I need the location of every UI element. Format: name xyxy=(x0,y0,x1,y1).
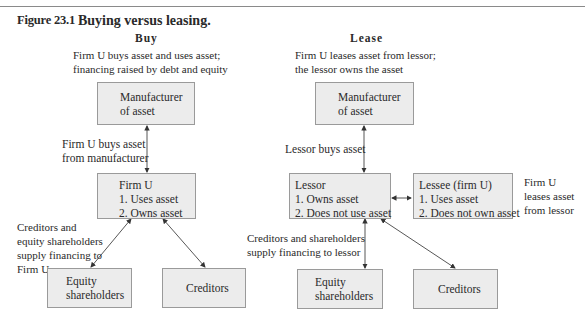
firm-box-title: Firm U xyxy=(119,178,195,192)
lease-manufacturer-box: Manufacturer of asset xyxy=(315,82,414,125)
box-line: shareholders xyxy=(66,288,131,302)
firm-box-item: 1. Uses asset xyxy=(119,192,195,206)
label-line: leases asset xyxy=(524,189,574,203)
box-line: of asset xyxy=(120,104,194,118)
lessee-box-item: 2. Does not own asset xyxy=(419,206,512,220)
box-line: Equity xyxy=(315,275,382,289)
box-line: Equity xyxy=(66,274,131,288)
buy-firm-box: Firm U 1. Uses asset 2. Owns asset xyxy=(97,173,196,219)
lease-purchase-label: Lessor buys asset xyxy=(285,142,366,156)
box-line: Creditors xyxy=(438,282,497,296)
label-line: equity shareholders xyxy=(17,234,103,248)
lessor-box-title: Lessor xyxy=(295,178,390,192)
box-line: of asset xyxy=(338,104,413,118)
lease-caption-line-1: Firm U leases asset from lessor; xyxy=(295,48,436,62)
label-line: Creditors and shareholders xyxy=(247,231,365,245)
label-line: Firm U xyxy=(524,175,574,189)
label-line: supply financing to lessor xyxy=(247,245,365,259)
buy-purchase-label: Firm U buys asset from manufacturer xyxy=(62,137,149,165)
lease-heading: Lease xyxy=(350,32,383,44)
lessee-box-item: 1. Uses asset xyxy=(419,192,512,206)
buy-creditors-arrow xyxy=(163,219,205,267)
label-line: Creditors and xyxy=(17,220,103,234)
lessor-box-item: 1. Owns asset xyxy=(295,192,390,206)
label-line: from lessor xyxy=(524,203,574,217)
buy-caption-line-1: Firm U buys asset and uses asset; xyxy=(73,48,228,62)
lease-equity-box: Equity shareholders xyxy=(297,269,383,309)
label-line: supply financing to xyxy=(17,248,103,262)
buy-heading: Buy xyxy=(135,32,158,44)
box-line: Creditors xyxy=(186,281,245,295)
lease-caption-line-2: the lessor owns the asset xyxy=(295,62,436,76)
box-line: shareholders xyxy=(315,289,382,303)
label-line: from manufacturer xyxy=(62,151,149,165)
lessor-box: Lessor 1. Owns asset 2. Does not use ass… xyxy=(289,173,391,219)
lease-relationship-label: Firm U leases asset from lessor xyxy=(524,175,574,217)
lessee-box: Lessee (firm U) 1. Uses asset 2. Does no… xyxy=(413,173,513,219)
box-line: Manufacturer xyxy=(120,90,194,104)
firm-box-item: 2. Owns asset xyxy=(119,206,195,220)
lease-caption: Firm U leases asset from lessor; the les… xyxy=(295,48,436,76)
lease-creditors-box: Creditors xyxy=(413,269,498,309)
lease-creditors-arrow xyxy=(381,219,455,268)
lease-financing-label: Creditors and shareholders supply financ… xyxy=(247,231,365,259)
lessor-box-item: 2. Does not use asset xyxy=(295,206,390,220)
label-line: Firm U buys asset xyxy=(62,137,149,151)
box-line: Manufacturer xyxy=(338,90,413,104)
buy-creditors-box: Creditors xyxy=(162,268,246,308)
buy-caption-line-2: financing raised by debt and equity xyxy=(73,62,228,76)
buy-manufacturer-box: Manufacturer of asset xyxy=(97,82,195,125)
lessee-box-title: Lessee (firm U) xyxy=(419,178,512,192)
buy-caption: Firm U buys asset and uses asset; financ… xyxy=(73,48,228,76)
buy-equity-box: Equity shareholders xyxy=(47,268,132,308)
